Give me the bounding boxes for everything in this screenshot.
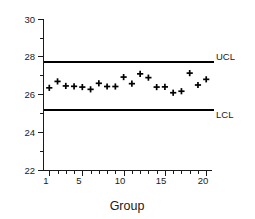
data-point <box>87 86 93 92</box>
y-axis-major-ticks <box>38 20 44 171</box>
ucl-label: UCL <box>216 51 235 62</box>
y-tick-label-30: 30 <box>24 14 35 25</box>
control-chart: 30 28 26 24 22 1 5 10 15 20 UCL LCL Grou… <box>0 0 255 219</box>
data-point <box>121 74 127 80</box>
y-tick-label-24: 24 <box>24 127 35 138</box>
y-tick-label-26: 26 <box>24 89 35 100</box>
x-tick-label-5: 5 <box>76 175 81 186</box>
data-point <box>162 84 168 90</box>
data-point <box>195 82 201 88</box>
y-tick-label-28: 28 <box>24 51 35 62</box>
data-point <box>178 88 184 94</box>
x-axis-title: Group <box>110 199 145 213</box>
data-point <box>170 90 176 96</box>
data-point <box>129 81 135 87</box>
y-tick-label-22: 22 <box>24 165 35 176</box>
data-point <box>96 80 102 86</box>
data-point <box>54 78 60 84</box>
data-point-markers <box>46 70 209 96</box>
data-point <box>154 84 160 90</box>
data-point <box>46 85 52 91</box>
x-tick-label-15: 15 <box>156 175 167 186</box>
data-point <box>104 83 110 89</box>
data-point <box>63 83 69 89</box>
data-point <box>71 83 77 89</box>
control-limit-lines <box>44 62 215 110</box>
x-tick-label-20: 20 <box>198 175 209 186</box>
data-point <box>79 84 85 90</box>
x-axis-ticks <box>50 171 207 176</box>
x-tick-label-10: 10 <box>115 175 126 186</box>
data-point <box>112 83 118 89</box>
data-point <box>137 71 143 77</box>
data-point <box>187 70 193 76</box>
data-point <box>203 76 209 82</box>
lcl-label: LCL <box>216 109 233 120</box>
control-chart-canvas: 30 28 26 24 22 1 5 10 15 20 UCL LCL Grou… <box>0 0 255 219</box>
data-point <box>145 75 151 81</box>
x-tick-label-1: 1 <box>43 175 48 186</box>
